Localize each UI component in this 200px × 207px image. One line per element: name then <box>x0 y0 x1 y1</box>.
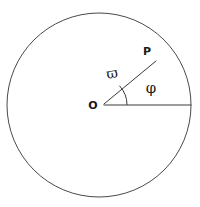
polar-diagram-svg: O P ϖ φ <box>0 0 200 207</box>
angle-label-phi: φ <box>146 79 157 97</box>
origin-label-o: O <box>88 99 97 112</box>
polar-coordinate-figure: O P ϖ φ <box>0 0 200 207</box>
point-label-p: P <box>143 45 151 58</box>
radius-magnitude-label: ϖ <box>105 64 120 82</box>
